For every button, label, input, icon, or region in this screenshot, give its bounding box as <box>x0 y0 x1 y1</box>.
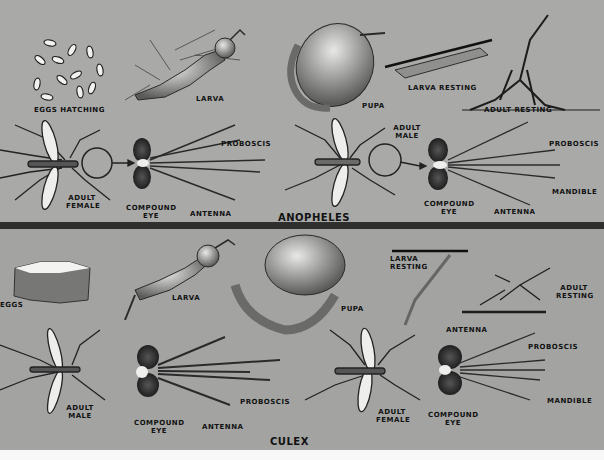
anopheles-eggs-illustration <box>33 39 104 101</box>
culex-adult-resting-illustration <box>462 268 550 312</box>
label-antenna: ANTENNA <box>190 210 231 218</box>
label-antenna: ANTENNA <box>202 423 243 431</box>
culex-male-head-illustration <box>136 337 280 405</box>
label-larva: LARVA <box>196 95 224 103</box>
label-larva-resting: LARVA RESTING <box>408 84 477 92</box>
label-proboscis: PROBOSCIS <box>221 140 271 148</box>
culex-adult-male-illustration <box>0 327 105 414</box>
label-compound-eye: COMPOUND EYE <box>134 419 184 435</box>
culex-adult-female-illustration <box>305 327 420 412</box>
label-pupa: PUPA <box>341 305 364 313</box>
label-adult-female: ADULT FEMALE <box>66 194 98 210</box>
label-proboscis: PROBOSCIS <box>549 140 599 148</box>
label-mandible: MANDIBLE <box>547 397 592 405</box>
culex-larva-illustration <box>125 240 235 320</box>
anopheles-female-head-illustration <box>133 125 265 200</box>
section-title-anopheles: ANOPHELES <box>278 212 350 223</box>
label-eggs: EGGS <box>0 301 23 309</box>
label-compound-eye: COMPOUND EYE <box>428 411 478 427</box>
illustration-layer <box>0 0 604 460</box>
label-adult-female: ADULT FEMALE <box>376 408 408 424</box>
label-antenna: ANTENNA <box>446 326 487 334</box>
label-larva-resting: LARVA RESTING <box>390 255 420 271</box>
label-eggs-hatching: EGGS HATCHING <box>34 106 105 114</box>
label-larva: LARVA <box>172 294 200 302</box>
label-proboscis: PROBOSCIS <box>240 398 290 406</box>
anopheles-adult-resting-illustration <box>462 15 600 110</box>
label-proboscis: PROBOSCIS <box>528 343 578 351</box>
culex-pupa-illustration <box>235 235 345 330</box>
label-compound-eye: COMPOUND EYE <box>126 204 176 220</box>
label-adult-resting: ADULT RESTING <box>484 106 552 114</box>
label-compound-eye: COMPOUND EYE <box>424 200 474 216</box>
label-adult-male: ADULT MALE <box>66 404 94 420</box>
label-adult-resting: ADULT RESTING <box>556 284 592 300</box>
anopheles-male-head-illustration <box>428 122 560 205</box>
culex-eggs-illustration <box>14 262 90 303</box>
label-adult-male: ADULT MALE <box>392 124 422 140</box>
label-mandible: MANDIBLE <box>552 188 597 196</box>
label-antenna: ANTENNA <box>494 208 535 216</box>
label-pupa: PUPA <box>362 102 385 110</box>
section-title-culex: CULEX <box>270 436 309 447</box>
anopheles-larva-illustration <box>125 30 245 100</box>
anopheles-larva-resting-illustration <box>385 40 492 78</box>
